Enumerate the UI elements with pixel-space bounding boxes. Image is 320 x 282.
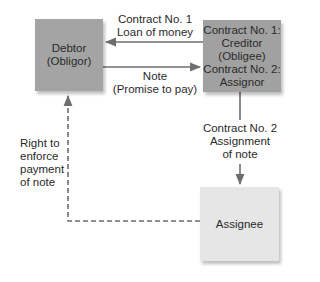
assignee-node: Assignee [200, 187, 279, 261]
loan-edge-label: Contract No. 1 Loan of money [108, 13, 202, 39]
debtor-node: Debtor (Obligor) [35, 19, 103, 91]
debtor-label: Debtor (Obligor) [47, 42, 92, 68]
assignment-edge-label: Contract No. 2 Assignment of note [192, 122, 288, 161]
right-to-enforce-dashed-arrow [68, 96, 200, 221]
creditor-label: Contract No. 1: Creditor (Obligee) Contr… [203, 24, 280, 89]
creditor-assignor-node: Contract No. 1: Creditor (Obligee) Contr… [203, 20, 281, 92]
assignee-label: Assignee [216, 218, 263, 231]
right-to-enforce-edge-label: Right to enforce payment of note [20, 137, 70, 189]
note-edge-label: Note (Promise to pay) [108, 70, 202, 96]
